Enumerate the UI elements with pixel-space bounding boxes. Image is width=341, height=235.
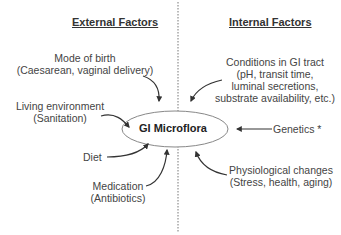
factor-title: Living environment	[10, 100, 110, 112]
factor-gi-conditions: Conditions in GI tract (pH, transit time…	[212, 56, 338, 104]
center-label: GI Microflora	[139, 122, 207, 134]
factor-detail: (Antibiotics)	[88, 192, 148, 204]
factor-title: Conditions in GI tract	[212, 56, 338, 68]
factor-title: Medication	[88, 180, 148, 192]
factor-genetics: Genetics *	[273, 123, 321, 135]
factor-medication: Medication (Antibiotics)	[88, 180, 148, 204]
factor-title: Genetics *	[273, 123, 321, 135]
factor-diet: Diet	[83, 151, 102, 163]
factor-detail: luminal secretions,	[212, 80, 338, 92]
factor-detail: (Sanitation)	[10, 112, 110, 124]
factor-detail: (pH, transit time,	[212, 68, 338, 80]
factor-detail: (Stress, health, aging)	[226, 176, 336, 188]
factor-mode-of-birth: Mode of birth (Caesarean, vaginal delive…	[15, 52, 155, 76]
external-factors-heading: External Factors	[72, 16, 158, 28]
factor-title: Diet	[83, 151, 102, 163]
factor-title: Physiological changes	[226, 164, 336, 176]
factor-title: Mode of birth	[15, 52, 155, 64]
factor-detail: substrate availability, etc.)	[212, 92, 338, 104]
factor-physiological: Physiological changes (Stress, health, a…	[226, 164, 336, 188]
internal-factors-heading: Internal Factors	[229, 16, 312, 28]
factor-living-environment: Living environment (Sanitation)	[10, 100, 110, 124]
factor-detail: (Caesarean, vaginal delivery)	[15, 64, 155, 76]
